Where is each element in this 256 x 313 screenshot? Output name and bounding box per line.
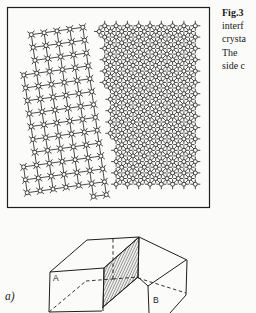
caption-line: side c: [222, 59, 256, 72]
hatched-interface-plane: [103, 237, 139, 307]
right-diamond-grain-lattice: [94, 21, 200, 189]
figure-caption: Fig.3 interf crysta The side c: [222, 6, 256, 72]
caption-line: Fig.3: [222, 6, 256, 19]
caption-line: The: [222, 46, 256, 59]
label-block-a: A: [53, 273, 59, 283]
sub-figure-label: a): [5, 290, 15, 303]
left-tilted-grain-lattice: [20, 23, 111, 200]
label-block-b: B: [153, 295, 159, 305]
caption-line: crysta: [222, 32, 256, 45]
figure-canvas: a) A B: [0, 0, 256, 313]
caption-line: interf: [222, 19, 256, 32]
